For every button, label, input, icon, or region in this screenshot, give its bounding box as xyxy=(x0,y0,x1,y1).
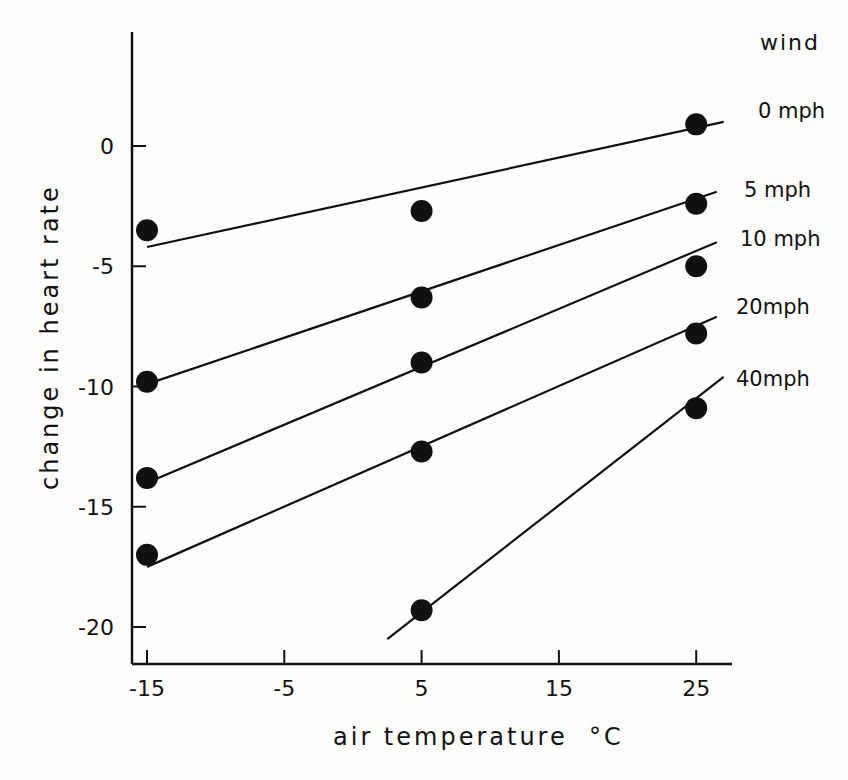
data-point xyxy=(685,323,707,345)
data-point xyxy=(685,193,707,215)
fit-line xyxy=(387,377,723,639)
series-label: 0 mph xyxy=(758,99,825,123)
data-points xyxy=(136,113,707,621)
x-tick-label: -5 xyxy=(273,676,295,701)
series-label: 40mph xyxy=(736,367,810,391)
series-label: 10 mph xyxy=(740,227,821,251)
y-tick-label: -20 xyxy=(78,615,114,640)
x-tick-label: -15 xyxy=(129,676,165,701)
series-labels: 0 mph5 mph10 mph20mph40mph xyxy=(736,99,825,391)
x-tick-label: 5 xyxy=(415,676,429,701)
data-point xyxy=(685,255,707,277)
series-label: 20mph xyxy=(736,295,810,319)
y-tick-label: -10 xyxy=(78,375,114,400)
data-point xyxy=(685,397,707,419)
axes: 0-5-10-15-20-15-551525 xyxy=(78,32,732,701)
x-tick-label: 15 xyxy=(545,676,573,701)
series-label: 5 mph xyxy=(744,178,811,202)
data-point xyxy=(136,544,158,566)
fit-line xyxy=(147,122,724,247)
y-tick-label: -15 xyxy=(78,495,114,520)
data-point xyxy=(411,440,433,462)
data-point xyxy=(411,351,433,373)
legend-title: wind xyxy=(760,30,820,55)
data-point xyxy=(411,200,433,222)
heart-rate-chart: 0-5-10-15-20-15-551525 0 mph5 mph10 mph2… xyxy=(0,0,848,780)
x-axis-label: air temperature °C xyxy=(333,723,624,751)
data-point xyxy=(411,599,433,621)
fit-lines xyxy=(147,122,724,639)
y-tick-label: 0 xyxy=(100,134,114,159)
data-point xyxy=(411,287,433,309)
data-point xyxy=(136,467,158,489)
y-tick-label: -5 xyxy=(92,254,114,279)
x-tick-label: 25 xyxy=(682,676,710,701)
data-point xyxy=(136,371,158,393)
y-axis-label: change in heart rate xyxy=(36,184,64,490)
data-point xyxy=(136,219,158,241)
data-point xyxy=(685,113,707,135)
